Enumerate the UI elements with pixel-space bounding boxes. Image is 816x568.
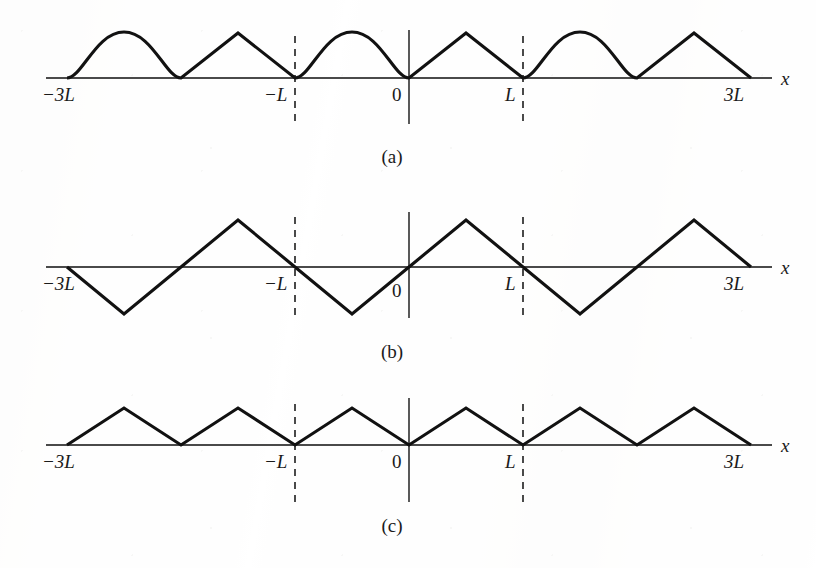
tick-label-minus-L-a: −L <box>264 84 287 105</box>
tick-label-minus-L-b: −L <box>264 273 287 294</box>
tick-label-L-c: L <box>504 451 516 472</box>
figure-root: −3L −L 0 L 3L x (a) −3L −L 0 L 3L <box>0 0 816 568</box>
panel-caption-a: (a) <box>381 146 402 168</box>
tick-label-minus-3L-a: −3L <box>42 84 75 105</box>
panel-b-plot: −3L −L 0 L 3L x (b) <box>0 190 816 380</box>
tick-label-zero-c: 0 <box>392 451 402 472</box>
x-axis-label-b: x <box>780 257 790 278</box>
tick-label-zero-b: 0 <box>392 280 402 301</box>
panel-caption-b: (b) <box>381 341 403 363</box>
tick-label-minus-L-c: −L <box>264 451 287 472</box>
x-axis-label-a: x <box>780 68 790 89</box>
panel-c: −3L −L 0 L 3L x (c) <box>0 380 816 568</box>
tick-label-L-a: L <box>504 84 516 105</box>
x-axis-label-c: x <box>780 435 790 456</box>
tick-label-plus-3L-c: 3L <box>723 451 744 472</box>
panel-a-plot: −3L −L 0 L 3L x (a) <box>0 0 816 190</box>
panel-c-plot: −3L −L 0 L 3L x (c) <box>0 380 816 568</box>
panel-a: −3L −L 0 L 3L x (a) <box>0 0 816 190</box>
panel-b: −3L −L 0 L 3L x (b) <box>0 190 816 380</box>
tick-label-minus-3L-b: −3L <box>42 273 75 294</box>
tick-label-plus-3L-a: 3L <box>723 84 744 105</box>
tick-label-zero-a: 0 <box>392 84 402 105</box>
panel-caption-c: (c) <box>381 515 402 537</box>
tick-label-L-b: L <box>504 273 516 294</box>
tick-label-minus-3L-c: −3L <box>42 451 75 472</box>
tick-label-plus-3L-b: 3L <box>723 273 744 294</box>
